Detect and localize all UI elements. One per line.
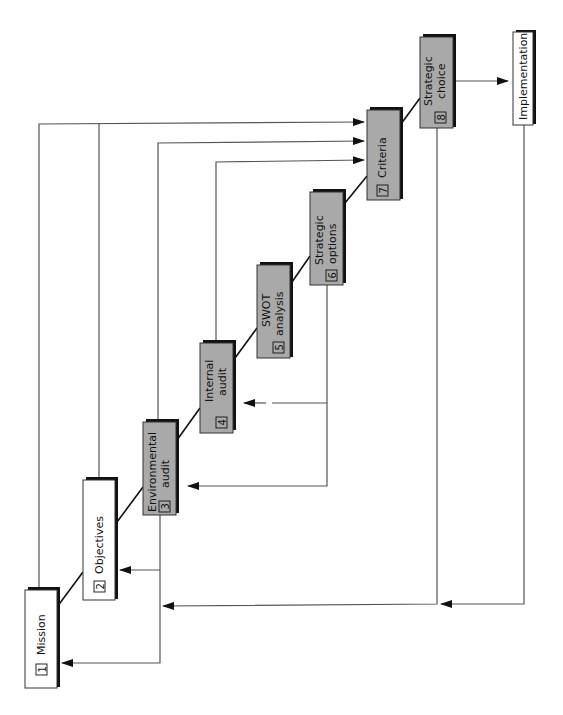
step-criteria-number: 7 xyxy=(378,187,389,193)
step-strategic-choice: Strategic 8 choice xyxy=(420,34,456,128)
step-internal-audit-number: 4 xyxy=(217,419,228,425)
step-swot-number: 5 xyxy=(274,344,285,350)
step-internal-audit-label-1: Internal xyxy=(203,360,216,402)
step-strategic-options-label-2: options xyxy=(326,223,339,264)
connector-4-5 xyxy=(235,328,257,358)
feedback-lines xyxy=(62,81,524,663)
step-criteria-label: Criteria xyxy=(376,137,389,178)
connector-6-7 xyxy=(345,176,367,203)
connector-1-2 xyxy=(57,572,83,607)
connector-7-8 xyxy=(401,98,420,124)
step-strategic-choice-label-2: choice xyxy=(435,63,448,99)
step-strategic-options: Strategic 6 options xyxy=(310,189,346,285)
step-mission: Mission 1 xyxy=(25,587,60,688)
step-mission-label: Mission xyxy=(35,614,48,655)
line-implementation-feedback xyxy=(441,125,524,604)
step-environmental-audit: Environmental 3 audit xyxy=(143,419,179,515)
strategy-process-diagram: Mission 1 Objectives 2 Environmental 3 a… xyxy=(0,0,563,715)
step-swot-label-2: analysis xyxy=(273,291,286,336)
implementation-label: Implementation xyxy=(517,33,530,120)
step-environmental-audit-label-1: Environmental xyxy=(146,432,159,512)
step-environmental-audit-number: 3 xyxy=(160,503,171,509)
connector-5-6 xyxy=(292,256,310,282)
step-criteria: Criteria 7 xyxy=(367,107,403,200)
step-objectives-label: Objectives xyxy=(93,516,106,574)
step-swot-analysis: SWOT 5 analysis xyxy=(257,262,293,358)
connector-2-3 xyxy=(117,487,143,522)
step-strategic-options-label-1: Strategic xyxy=(313,215,326,265)
step-objectives-number: 2 xyxy=(95,583,106,589)
connector-3-4 xyxy=(177,408,200,440)
step-swot-label-1: SWOT xyxy=(260,293,273,327)
terminal-implementation: Implementation xyxy=(513,30,536,125)
step-internal-audit-label-2: audit xyxy=(216,367,229,396)
step-strategic-options-number: 6 xyxy=(327,272,338,278)
step-strategic-choice-number: 8 xyxy=(436,114,447,120)
step-objectives: Objectives 2 xyxy=(83,477,118,600)
step-mission-number: 1 xyxy=(37,666,48,672)
step-internal-audit: Internal 4 audit xyxy=(200,340,236,433)
step-environmental-audit-label-2: audit xyxy=(159,459,172,488)
step-strategic-choice-label-1: Strategic xyxy=(422,56,435,106)
